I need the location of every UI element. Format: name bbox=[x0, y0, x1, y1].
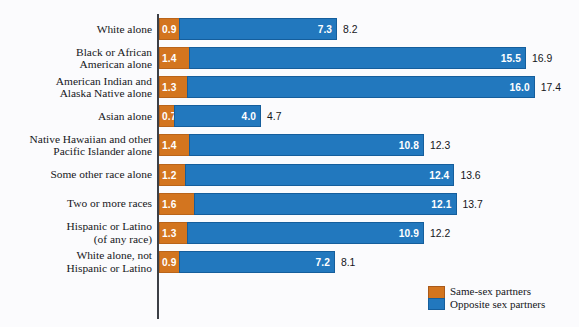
bar-value-opposite-sex: 7.3 bbox=[318, 24, 332, 35]
bar-value-opposite-sex: 15.5 bbox=[501, 53, 521, 64]
bar-segment-same-sex: 0.7 bbox=[159, 105, 174, 127]
stacked-bar-chart: White aloneBlack or African American alo… bbox=[0, 0, 579, 327]
bar-segment-same-sex: 1.4 bbox=[159, 134, 189, 156]
bar-total-label: 12.2 bbox=[430, 227, 450, 238]
bar-value-same-sex: 1.3 bbox=[162, 82, 176, 93]
bar-segment-opposite-sex: 12.4 bbox=[185, 164, 454, 186]
bar-total-label: 13.6 bbox=[460, 169, 480, 180]
category-label: Native Hawaiian and other Pacific Island… bbox=[0, 130, 152, 160]
legend-swatch-opposite-sex bbox=[428, 298, 445, 310]
bar-value-same-sex: 1.2 bbox=[162, 169, 176, 180]
bar-value-opposite-sex: 10.8 bbox=[399, 140, 419, 151]
legend-swatch-same-sex bbox=[428, 286, 445, 298]
legend-swatches bbox=[428, 286, 445, 310]
bar-total-label: 17.4 bbox=[541, 82, 561, 93]
bar-total-label: 8.2 bbox=[343, 24, 357, 35]
bar-value-opposite-sex: 12.1 bbox=[431, 198, 451, 209]
bar-value-opposite-sex: 4.0 bbox=[242, 111, 256, 122]
bar-value-opposite-sex: 10.9 bbox=[399, 227, 419, 238]
legend-labels: Same-sex partners Opposite sex partners bbox=[450, 285, 545, 311]
legend-label-same-sex: Same-sex partners bbox=[450, 285, 545, 298]
category-label: Asian alone bbox=[0, 101, 152, 131]
bar-value-same-sex: 1.4 bbox=[162, 140, 176, 151]
category-label: Some other race alone bbox=[0, 160, 152, 190]
bar-total-label: 13.7 bbox=[463, 198, 483, 209]
bar-segment-same-sex: 1.2 bbox=[159, 164, 185, 186]
bar-segment-opposite-sex: 4.0 bbox=[174, 105, 261, 127]
bar-value-same-sex: 1.4 bbox=[162, 53, 176, 64]
bar-value-same-sex: 1.6 bbox=[162, 198, 176, 209]
bar-segment-same-sex: 1.3 bbox=[159, 76, 187, 98]
category-label: American Indian and Alaska Native alone bbox=[0, 72, 152, 102]
category-label: White alone bbox=[0, 14, 152, 44]
category-label: Two or more races bbox=[0, 189, 152, 219]
category-label: White alone, not Hispanic or Latino bbox=[0, 247, 152, 277]
bar-total-label: 12.3 bbox=[430, 140, 450, 151]
bar-segment-same-sex: 0.9 bbox=[159, 18, 179, 40]
legend: Same-sex partners Opposite sex partners bbox=[428, 285, 545, 311]
bar-value-same-sex: 0.9 bbox=[162, 256, 176, 267]
bar-value-same-sex: 0.9 bbox=[162, 24, 176, 35]
bar-value-opposite-sex: 12.4 bbox=[429, 169, 449, 180]
bar-value-opposite-sex: 7.2 bbox=[315, 256, 329, 267]
category-label: Hispanic or Latino (of any race) bbox=[0, 218, 152, 248]
bar-segment-opposite-sex: 16.0 bbox=[187, 76, 535, 98]
bar-segment-same-sex: 1.4 bbox=[159, 47, 189, 69]
bar-value-opposite-sex: 16.0 bbox=[510, 82, 530, 93]
bar-segment-opposite-sex: 12.1 bbox=[194, 193, 457, 215]
bar-total-label: 8.1 bbox=[341, 256, 355, 267]
bar-segment-opposite-sex: 10.9 bbox=[187, 222, 424, 244]
bar-total-label: 16.9 bbox=[532, 53, 552, 64]
bar-segment-same-sex: 1.3 bbox=[159, 222, 187, 244]
legend-label-opposite-sex: Opposite sex partners bbox=[450, 298, 545, 311]
bar-segment-same-sex: 1.6 bbox=[159, 193, 194, 215]
bar-segment-same-sex: 0.9 bbox=[159, 251, 179, 273]
bar-total-label: 4.7 bbox=[267, 111, 281, 122]
bar-segment-opposite-sex: 10.8 bbox=[189, 134, 424, 156]
category-label: Black or African American alone bbox=[0, 43, 152, 73]
bar-segment-opposite-sex: 15.5 bbox=[189, 47, 526, 69]
bar-segment-opposite-sex: 7.3 bbox=[179, 18, 338, 40]
bar-segment-opposite-sex: 7.2 bbox=[179, 251, 335, 273]
bar-value-same-sex: 1.3 bbox=[162, 227, 176, 238]
